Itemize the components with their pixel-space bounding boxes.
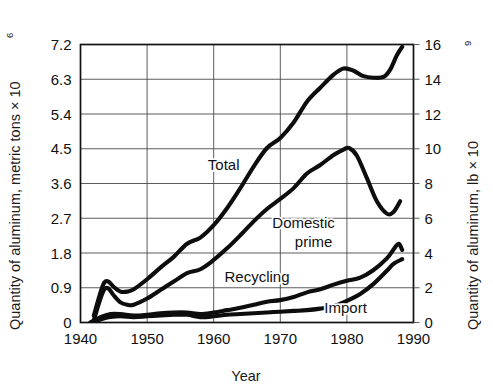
- y-tick-label-right: 4: [425, 245, 433, 262]
- chart-canvas: Quantity of aluminum, metric tons × 10 6…: [0, 0, 493, 391]
- y-tick-label-left: 3.6: [51, 175, 72, 192]
- x-tick-label: 1950: [130, 330, 163, 347]
- series-annotations: TotalDomesticprimeRecyclingImport: [208, 156, 368, 316]
- y-tick-label-right: 6: [425, 210, 433, 227]
- aluminum-production-chart: Quantity of aluminum, metric tons × 10 6…: [0, 0, 493, 391]
- y-tick-label-right: 14: [425, 71, 442, 88]
- x-tick-label: 1990: [397, 330, 430, 347]
- y-tick-label-right: 0: [425, 314, 433, 331]
- y-tick-label-left: 2.7: [51, 210, 72, 227]
- series-annotation-label: Import: [324, 299, 367, 316]
- x-axis-title: Year: [231, 368, 260, 384]
- series-annotation-label: Total: [208, 156, 240, 173]
- y-axis-left-ticks: 00.91.82.73.64.55.46.37.2: [51, 36, 72, 331]
- x-tick-label: 1960: [197, 330, 230, 347]
- y-tick-label-left: 1.8: [51, 245, 72, 262]
- y-axis-right-title-exponent: 9: [462, 41, 473, 46]
- y-axis-right-title-text: Quantity of aluminum, lb × 10: [465, 141, 481, 330]
- x-axis-ticks: 194019501960197019801990: [64, 330, 430, 347]
- y-tick-label-right: 12: [425, 106, 442, 123]
- y-tick-label-left: 0.9: [51, 279, 72, 296]
- y-tick-label-left: 7.2: [51, 36, 72, 53]
- series-annotation-label: prime: [295, 233, 333, 250]
- y-axis-left-title-text: Quantity of aluminum, metric tons × 10: [7, 81, 23, 330]
- y-tick-label-left: 4.5: [51, 140, 72, 157]
- y-tick-label-right: 16: [425, 36, 442, 53]
- y-tick-label-left: 0: [63, 314, 71, 331]
- y-tick-label-left: 5.4: [51, 106, 72, 123]
- y-tick-label-left: 6.3: [51, 71, 72, 88]
- x-tick-label: 1940: [64, 330, 97, 347]
- y-axis-right-title: Quantity of aluminum, lb × 10 9: [462, 41, 481, 330]
- y-axis-left-title: Quantity of aluminum, metric tons × 10 6: [4, 33, 23, 330]
- y-tick-label-right: 10: [425, 140, 442, 157]
- series-annotation-label: Recycling: [224, 268, 289, 285]
- y-tick-label-right: 2: [425, 279, 433, 296]
- y-axis-left-title-exponent: 6: [4, 33, 15, 38]
- y-tick-label-right: 8: [425, 175, 433, 192]
- series-annotation-label: Domestic: [272, 214, 335, 231]
- x-tick-label: 1970: [264, 330, 297, 347]
- x-tick-label: 1980: [330, 330, 363, 347]
- y-axis-right-ticks: 0246810121416: [414, 36, 442, 331]
